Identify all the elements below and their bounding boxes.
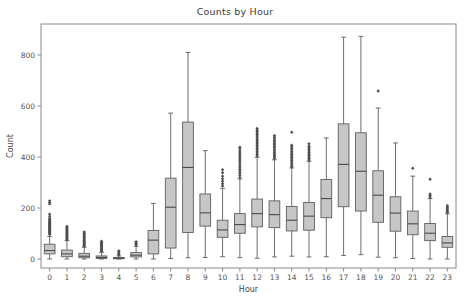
box-group (321, 138, 332, 257)
box-rect (390, 197, 401, 231)
box-group (148, 203, 159, 259)
box-group (407, 167, 418, 259)
x-tick-label: 4 (116, 273, 121, 282)
x-tick-label: 9 (203, 273, 208, 282)
box-group (338, 37, 349, 255)
box-group (44, 199, 55, 259)
y-axis-label: Count (6, 134, 15, 158)
y-tick-label: 600 (21, 102, 36, 111)
flier-marker (221, 168, 224, 171)
box-rect (217, 220, 228, 237)
x-tick-label: 8 (186, 273, 191, 282)
box-group (252, 127, 263, 258)
x-tick-label: 14 (287, 273, 297, 282)
flier-marker (221, 171, 224, 174)
box-group (200, 151, 211, 258)
flier-marker (221, 174, 224, 177)
box-group (234, 146, 245, 258)
x-tick-label: 23 (443, 273, 453, 282)
x-tick-label: 6 (151, 273, 156, 282)
x-tick-label: 19 (373, 273, 383, 282)
box-group (286, 131, 297, 257)
y-tick-label: 800 (21, 51, 36, 60)
x-tick-label: 5 (134, 273, 139, 282)
x-axis-label: Hour (239, 285, 259, 294)
box-group (390, 143, 401, 258)
box-rect (425, 224, 436, 241)
x-tick-label: 7 (168, 273, 173, 282)
box-group (96, 239, 107, 259)
box-group (131, 240, 142, 259)
x-tick-label: 10 (218, 273, 228, 282)
box-group (269, 134, 280, 257)
box-group (217, 168, 228, 257)
box-rect (252, 199, 263, 227)
box-group (165, 113, 176, 258)
box-rect (373, 171, 384, 223)
x-tick-label: 1 (65, 273, 70, 282)
x-tick-label: 11 (235, 273, 245, 282)
x-tick-label: 15 (304, 273, 314, 282)
flier-marker (428, 177, 431, 180)
box-rect (165, 178, 176, 248)
x-tick-label: 2 (82, 273, 87, 282)
box-rect (442, 237, 453, 248)
chart-root: Counts by Hour 0200400600800Count0123456… (0, 0, 470, 304)
box-group (442, 204, 453, 259)
y-tick-label: 400 (21, 153, 36, 162)
box-group (79, 230, 90, 259)
x-tick-label: 21 (408, 273, 418, 282)
box-group (62, 225, 73, 259)
y-tick-label: 200 (21, 204, 36, 213)
flier-marker (290, 131, 293, 134)
flier-marker (48, 212, 51, 215)
flier-marker (411, 167, 414, 170)
x-tick-label: 0 (47, 273, 52, 282)
box-rect (200, 194, 211, 226)
x-tick-label: 13 (270, 273, 280, 282)
box-rect (234, 214, 245, 234)
x-tick-label: 12 (252, 273, 262, 282)
x-tick-label: 20 (391, 273, 401, 282)
box-rect (148, 230, 159, 253)
box-rect (286, 206, 297, 230)
x-tick-label: 3 (99, 273, 104, 282)
x-tick-label: 18 (356, 273, 366, 282)
box-rect (338, 124, 349, 207)
y-tick-label: 0 (30, 255, 35, 264)
x-tick-label: 22 (425, 273, 435, 282)
box-rect (407, 211, 418, 235)
flier-marker (376, 89, 379, 92)
x-tick-label: 16 (322, 273, 332, 282)
plot-area: 0200400600800Count0123456789101112131415… (0, 0, 470, 304)
box-rect (44, 244, 55, 254)
box-rect (356, 133, 367, 211)
x-tick-label: 17 (339, 273, 349, 282)
flier-marker (307, 142, 310, 145)
box-group (113, 249, 124, 259)
boxplot-svg: 0200400600800Count0123456789101112131415… (0, 0, 470, 304)
box-group (356, 36, 367, 254)
box-rect (79, 253, 90, 257)
box-rect (183, 122, 194, 232)
box-group (304, 142, 315, 257)
box-group (373, 89, 384, 257)
box-group (183, 52, 194, 257)
box-group (425, 177, 436, 259)
